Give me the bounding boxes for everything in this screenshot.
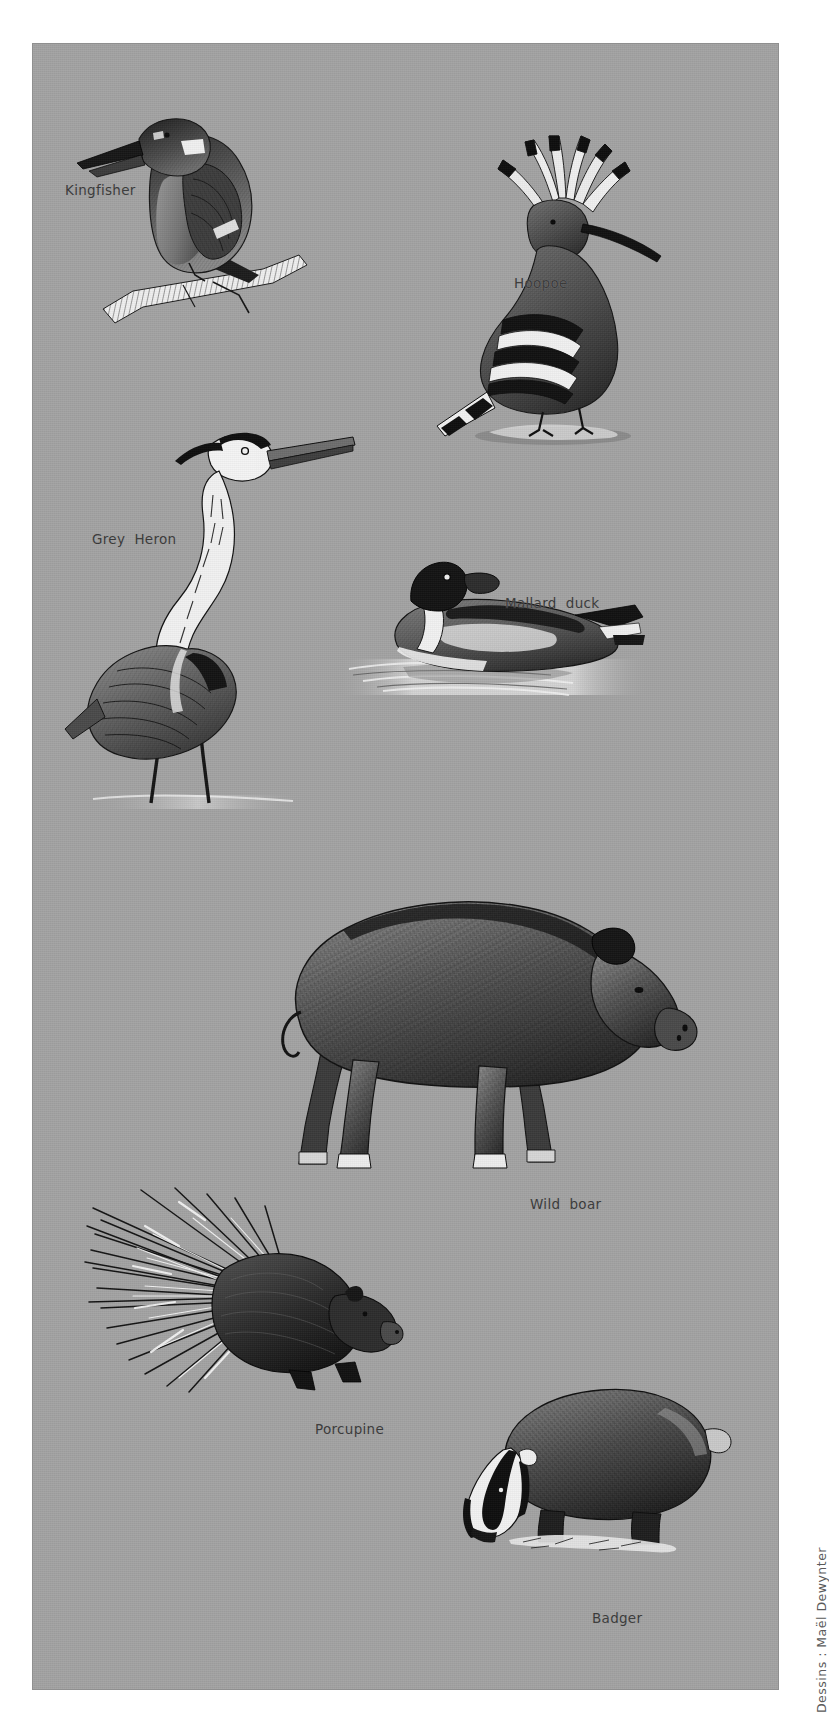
badger-eye <box>499 1488 503 1492</box>
kingfisher-eye <box>164 132 169 137</box>
boar-hooves <box>299 1150 555 1168</box>
kingfisher-drawing <box>63 69 363 359</box>
boar-eye <box>635 987 644 993</box>
boar-nostril <box>682 1025 687 1032</box>
badger-tail <box>705 1429 731 1453</box>
badger-ear <box>519 1449 537 1465</box>
porcupine-eye <box>363 1312 368 1317</box>
porcupine-drawing <box>83 1184 423 1404</box>
figure-badger <box>413 1334 743 1564</box>
caption-wild-boar: Wild boar <box>530 1196 601 1212</box>
hoopoe-drawing <box>403 124 703 464</box>
caption-grey-heron: Grey Heron <box>92 531 176 547</box>
caption-hoopoe: Hoopoe <box>514 275 568 291</box>
heron-neck <box>156 471 234 667</box>
illustration-plate: Kingfisher <box>33 44 778 1689</box>
credit-area: Dessins : Maël Dewynter <box>803 0 833 1733</box>
porcupine-snout <box>380 1322 403 1345</box>
caption-porcupine: Porcupine <box>315 1421 384 1437</box>
caption-kingfisher: Kingfisher <box>65 182 136 198</box>
heron-eye <box>242 448 249 455</box>
wild-boar-drawing <box>203 844 703 1174</box>
porcupine-nose <box>395 1330 399 1334</box>
mallard-bill <box>464 573 499 593</box>
boar-snout <box>655 1008 697 1050</box>
figure-hoopoe <box>403 124 703 464</box>
figure-porcupine <box>83 1184 423 1404</box>
badger-drawing <box>413 1334 743 1564</box>
kingfisher-cheek-patch <box>181 139 205 155</box>
mallard-head <box>411 562 467 611</box>
hoopoe-eye <box>550 219 555 224</box>
illustration-credit: Dessins : Maël Dewynter <box>814 1547 829 1713</box>
boar-hind-leg-far <box>299 1052 345 1164</box>
caption-mallard-duck: Mallard duck <box>505 595 599 611</box>
figure-wild-boar <box>203 844 703 1174</box>
mallard-eye <box>444 574 450 580</box>
figure-mallard-duck <box>323 549 663 729</box>
figure-kingfisher <box>63 69 363 359</box>
mallard-duck-drawing <box>323 549 663 729</box>
illustration-page: Kingfisher <box>0 0 835 1733</box>
caption-badger: Badger <box>592 1610 642 1626</box>
hoopoe-bill <box>581 224 661 262</box>
